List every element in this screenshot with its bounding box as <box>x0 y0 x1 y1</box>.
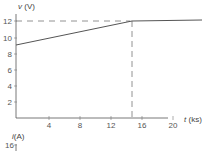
x-tick-label: 4 <box>47 121 52 130</box>
y-axis-label: v (V) <box>18 2 35 11</box>
y-tick-label: 12 <box>3 17 12 26</box>
y-tick-label: 10 <box>3 34 12 43</box>
second-chart-y-label: i(A) <box>12 132 25 141</box>
y-tick-label: 4 <box>8 82 13 91</box>
second-chart-first-tick: 16 <box>5 141 14 150</box>
voltage-time-chart: 2 4 6 8 10 12 4 8 12 16 20 v (V) t (ks) … <box>0 0 213 151</box>
x-tick-label: 8 <box>78 121 83 130</box>
x-tick-label: 16 <box>138 121 147 130</box>
x-axis-label: t (ks) <box>184 115 202 124</box>
y-tick-label: 2 <box>8 98 13 107</box>
x-tick-label: 12 <box>107 121 116 130</box>
voltage-series-line <box>16 20 202 45</box>
y-tick-label: 6 <box>8 66 13 75</box>
y-ticks: 2 4 6 8 10 12 <box>3 17 17 107</box>
x-tick-label: 20 <box>169 121 178 130</box>
y-tick-label: 8 <box>8 50 13 59</box>
